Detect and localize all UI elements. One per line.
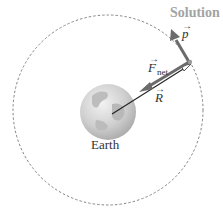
momentum-label: → p [181, 20, 192, 41]
svg-text:F: F [147, 60, 157, 75]
earth-label: Earth [91, 137, 119, 153]
orbit-diagram: → p → F net → R [0, 0, 223, 216]
svg-text:R: R [154, 90, 163, 105]
earth-globe [80, 84, 136, 140]
momentum-arrowhead [170, 29, 180, 41]
position-label: → R [154, 83, 165, 105]
satellite [188, 60, 192, 64]
net-force-label: → F net [147, 53, 168, 77]
svg-text:p: p [181, 26, 189, 41]
momentum-vector [176, 40, 189, 62]
svg-text:net: net [157, 67, 168, 77]
